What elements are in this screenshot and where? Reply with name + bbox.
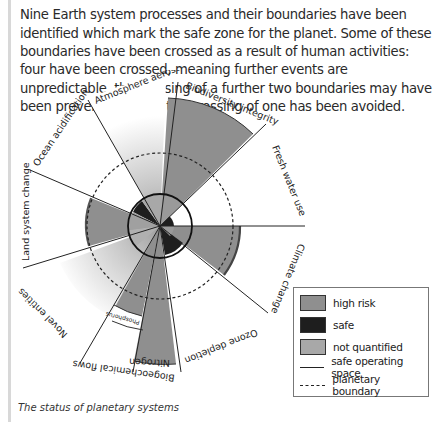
not-quantified-swatch	[300, 339, 326, 355]
label-landsystem: Land system change	[20, 162, 31, 261]
label-freshwater: Fresh water use	[270, 144, 308, 218]
legend-label: not quantified	[333, 341, 403, 353]
legend: high risk safe not quantified safe opera…	[293, 287, 429, 397]
legend-label: planetary boundary	[332, 373, 428, 397]
safe-swatch	[300, 317, 326, 333]
figure-caption: The status of planetary systems	[18, 402, 179, 413]
label-novel: Novel entities	[15, 286, 69, 340]
legend-label: high risk	[333, 297, 375, 309]
high-risk-swatch	[300, 295, 326, 311]
legend-safe: safe	[300, 316, 354, 334]
dashed-line-icon	[300, 385, 325, 386]
label-ocean: Ocean acidification	[31, 87, 91, 169]
solid-line-icon	[300, 367, 324, 368]
label-ozone: Ozone depletion	[183, 327, 259, 366]
legend-planetary-boundary: planetary boundary	[300, 376, 428, 394]
legend-label: safe	[333, 319, 354, 331]
label-nitrogen: Nitrogen	[129, 357, 170, 369]
legend-not-quantified: not quantified	[300, 338, 403, 356]
legend-high-risk: high risk	[300, 294, 375, 312]
